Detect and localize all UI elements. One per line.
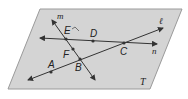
label-B: B [75, 62, 82, 73]
geometry-diagram: m n ℓ E D C F B A T [0, 0, 188, 99]
label-D: D [90, 28, 97, 39]
point-D [91, 39, 94, 42]
point-A [49, 70, 52, 73]
label-l: ℓ [159, 16, 163, 26]
label-C: C [120, 46, 128, 57]
label-E: E [64, 25, 71, 36]
point-C [122, 41, 125, 44]
label-m: m [57, 11, 64, 21]
label-F: F [63, 49, 70, 60]
point-E [64, 37, 67, 40]
label-n: n [152, 46, 157, 56]
point-F [71, 47, 74, 50]
label-A: A [47, 59, 55, 70]
point-B [78, 57, 81, 60]
